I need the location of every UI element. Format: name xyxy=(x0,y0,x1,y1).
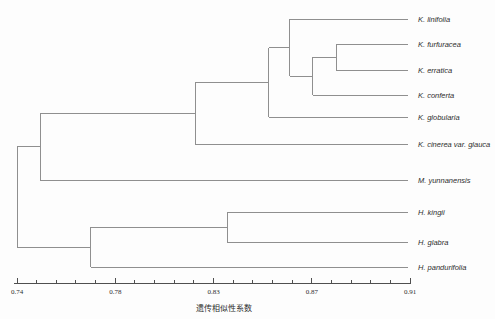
axis-tick-label: 0.83 xyxy=(207,288,220,296)
taxon-label: K. linifolia xyxy=(418,15,450,24)
taxon-label: H. pandurifolia xyxy=(418,263,466,272)
dendrogram-figure: 遗传相似性系数 K. linifoliaK. furfuraceaK. erra… xyxy=(0,0,495,319)
axis-tick-label: 0.91 xyxy=(404,288,417,296)
taxon-label: H. glabra xyxy=(418,238,448,247)
dendrogram-canvas: 遗传相似性系数 K. linifoliaK. furfuraceaK. erra… xyxy=(0,0,495,319)
taxon-label: K. conferta xyxy=(418,91,454,100)
axis-tick-label: 0.74 xyxy=(11,288,24,296)
taxon-label: K. erratica xyxy=(418,66,452,75)
taxon-label: H. kingii xyxy=(418,208,445,217)
axis-tick-label: 0.78 xyxy=(109,288,122,296)
taxon-label: M. yunnanensis xyxy=(418,176,471,185)
axis-tick-label: 0.87 xyxy=(306,288,319,296)
axis-title: 遗传相似性系数 xyxy=(196,303,252,313)
taxon-label: K. furfuracea xyxy=(418,40,461,49)
taxon-label: K. globularia xyxy=(418,113,460,122)
taxon-label: K. cinerea var. glauca xyxy=(418,140,490,149)
